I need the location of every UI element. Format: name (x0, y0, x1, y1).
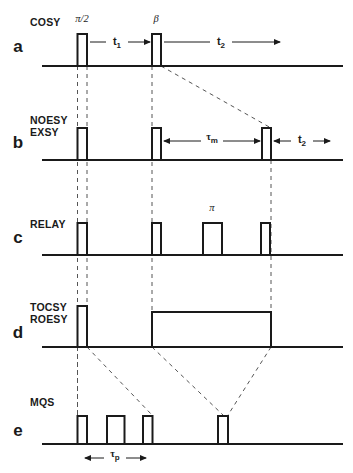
pulse-b-1 (152, 128, 161, 160)
sequence-name-b-0: NOESY (30, 114, 68, 126)
dashed-diagonal-connector-0 (161, 66, 271, 128)
sequence-name-b-1: EXSY (30, 126, 59, 138)
pulse-e-3 (218, 416, 228, 444)
interval-label-a-1: t2 (217, 35, 226, 50)
pulse-a-0 (78, 34, 88, 66)
pulse-b-2 (262, 128, 271, 160)
dashed-diagonal-connector-2 (152, 347, 223, 415)
pulse-c-1 (152, 223, 161, 255)
pulse-e-2 (143, 416, 153, 444)
spin-lock-block-d (152, 312, 271, 347)
interval-label-b-1: t2 (298, 133, 307, 148)
sequence-name-d-0: TOCSY (30, 301, 67, 313)
pulse-c-0 (78, 223, 88, 255)
pulse-row-c: cRELAYπ (13, 202, 343, 255)
pulse-b-0 (78, 128, 88, 160)
pulse-row-d: dTOCSYROESY (13, 301, 343, 347)
pulse-rows: aCOSYπ/2βt1t2bNOESYEXSYτmt2cRELAYπdTOCSY… (13, 13, 343, 462)
interval-label-a-0: t1 (113, 35, 122, 50)
interval-label-sub-a-0: 1 (117, 41, 122, 50)
interval-label-sub-a-1: 2 (221, 41, 226, 50)
interval-label-e-0: τp (110, 448, 120, 462)
interval-label-sub-e-0: p (115, 453, 120, 462)
pulse-e-0 (78, 416, 88, 444)
interval-label-sub-b-1: 2 (302, 139, 307, 148)
row-letter-b: b (13, 133, 23, 152)
pulse-a-1 (152, 34, 161, 66)
pulse-row-a: aCOSYπ/2βt1t2 (13, 13, 343, 66)
pulse-flip-angle-label-c-2: π (209, 202, 215, 213)
sequence-name-a-0: COSY (30, 16, 61, 28)
row-letter-a: a (13, 37, 23, 56)
row-letter-c: c (13, 228, 22, 247)
interval-label-sub-b-0: m (211, 136, 218, 145)
interval-label-b-0: τm (206, 131, 218, 145)
sequence-name-e-0: MQS (30, 396, 55, 408)
pulse-c-3 (261, 223, 270, 255)
sequence-name-c-0: RELAY (30, 218, 66, 230)
pulse-e-1 (107, 416, 125, 444)
pulse-flip-angle-label-a-0: π/2 (75, 13, 89, 24)
row-letter-d: d (13, 323, 23, 342)
pulse-c-2 (203, 223, 222, 255)
pulse-sequence-canvas: aCOSYπ/2βt1t2bNOESYEXSYτmt2cRELAYπdTOCSY… (0, 0, 353, 473)
pulse-row-e: eMQSτp (13, 396, 343, 462)
pulse-sequence-figure: aCOSYπ/2βt1t2bNOESYEXSYτmt2cRELAYπdTOCSY… (0, 0, 353, 473)
dashed-diagonal-connector-3 (228, 347, 271, 415)
pulse-flip-angle-label-a-1: β (152, 13, 159, 24)
sequence-name-d-1: ROESY (30, 313, 68, 325)
dashed-diagonal-connector-1 (87, 347, 152, 415)
pulse-d-0 (78, 306, 88, 347)
pulse-row-b: bNOESYEXSYτmt2 (13, 114, 343, 160)
row-letter-e: e (13, 421, 22, 440)
